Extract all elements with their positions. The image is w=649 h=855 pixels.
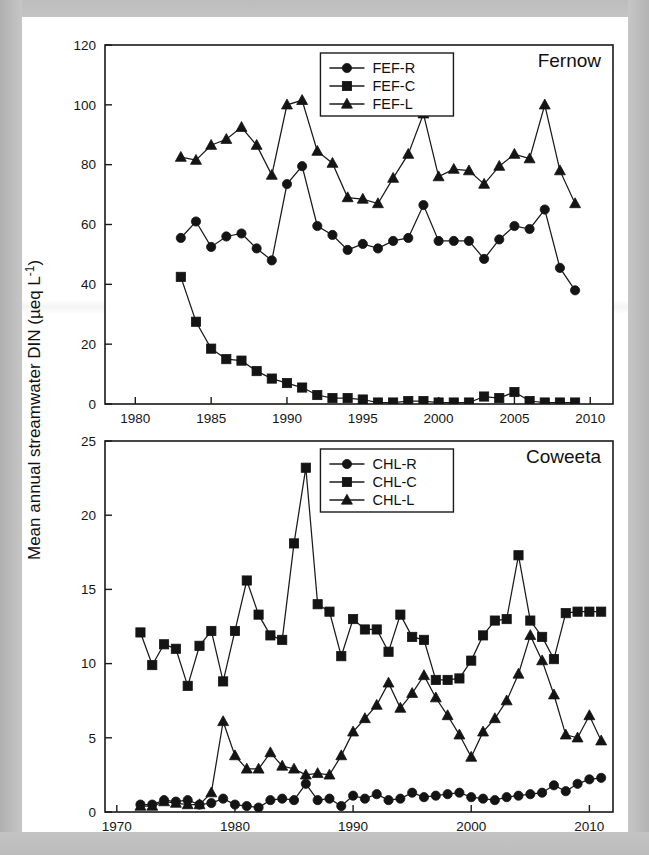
legend-label-CHL-L: CHL-L (372, 492, 414, 508)
y-tick-label: 5 (88, 731, 96, 746)
y-tick-label: 10 (81, 656, 96, 671)
data-point-CHL-C (372, 625, 381, 634)
data-point-CHL-C (159, 640, 168, 649)
x-tick-label: 1985 (196, 411, 226, 426)
data-point-CHL-R (408, 788, 417, 797)
panel-title: Fernow (538, 50, 602, 71)
data-point-CHL-C (207, 626, 216, 635)
data-point-CHL-R (597, 773, 606, 782)
data-point-CHL-R (502, 793, 511, 802)
data-point-FEF-C (252, 366, 261, 375)
data-point-FEF-R (434, 236, 443, 245)
data-point-CHL-C (573, 607, 582, 616)
data-point-FEF-R (191, 217, 200, 226)
data-point-FEF-C (480, 392, 489, 401)
legend-label-FEF-L: FEF-L (372, 96, 412, 112)
data-point-CHL-C (230, 626, 239, 635)
data-point-FEF-R (480, 254, 489, 263)
data-point-FEF-C (540, 398, 549, 407)
data-point-CHL-R (549, 781, 558, 790)
data-point-CHL-C (502, 614, 511, 623)
legend: CHL-RCHL-CCHL-L (320, 449, 453, 512)
legend-label-CHL-R: CHL-R (372, 456, 416, 472)
y-tick-label: 0 (88, 397, 96, 412)
x-tick-label: 1990 (338, 819, 368, 834)
data-point-CHL-C (348, 614, 357, 623)
data-point-CHL-C (301, 463, 310, 472)
data-point-FEF-R (555, 263, 564, 272)
x-tick-label: 1970 (102, 819, 132, 834)
chart-svg: Mean annual streamwater DIN (µeq L-1) 02… (0, 0, 649, 855)
data-point-CHL-C (337, 652, 346, 661)
legend-marker-FEF-R (342, 63, 351, 72)
data-point-FEF-R (267, 256, 276, 265)
data-point-CHL-C (266, 631, 275, 640)
data-point-CHL-R (289, 796, 298, 805)
y-tick-label: 100 (73, 98, 96, 113)
legend-label-FEF-C: FEF-C (372, 78, 415, 94)
data-point-FEF-C (328, 393, 337, 402)
data-point-FEF-R (358, 239, 367, 248)
data-point-FEF-R (313, 221, 322, 230)
data-point-FEF-R (389, 236, 398, 245)
data-point-CHL-C (289, 539, 298, 548)
data-point-CHL-C (561, 609, 570, 618)
data-point-CHL-R (455, 788, 464, 797)
legend-marker-CHL-C (342, 477, 351, 486)
data-point-CHL-R (301, 779, 310, 788)
panel-title: Coweeta (526, 446, 601, 467)
y-axis-label: Mean annual streamwater DIN (µeq L-1) (23, 260, 44, 560)
data-point-CHL-R (490, 796, 499, 805)
data-point-CHL-C (597, 607, 606, 616)
data-point-CHL-R (207, 798, 216, 807)
y-tick-label: 0 (88, 805, 96, 820)
y-tick-label: 40 (81, 277, 96, 292)
figure-container: Mean annual streamwater DIN (µeq L-1) 02… (0, 0, 649, 855)
data-point-FEF-R (510, 221, 519, 230)
data-point-CHL-C (325, 607, 334, 616)
data-point-FEF-R (237, 229, 246, 238)
data-point-CHL-C (585, 607, 594, 616)
data-point-FEF-C (191, 317, 200, 326)
x-tick-label: 2000 (456, 819, 486, 834)
data-point-FEF-C (510, 387, 519, 396)
data-point-CHL-R (467, 793, 476, 802)
data-point-FEF-R (464, 236, 473, 245)
data-point-CHL-R (278, 794, 287, 803)
data-point-CHL-R (561, 787, 570, 796)
data-point-FEF-C (343, 393, 352, 402)
data-point-CHL-R (526, 790, 535, 799)
data-point-FEF-R (252, 244, 261, 253)
data-point-CHL-R (266, 796, 275, 805)
data-point-FEF-R (570, 286, 579, 295)
data-point-FEF-C (207, 344, 216, 353)
panel-coweeta: 051015202519701980199020002010CoweetaCHL… (81, 434, 613, 834)
data-point-CHL-C (278, 635, 287, 644)
data-point-FEF-R (328, 230, 337, 239)
data-point-FEF-C (555, 398, 564, 407)
data-point-FEF-R (419, 200, 428, 209)
data-point-CHL-C (384, 647, 393, 656)
data-point-FEF-C (449, 398, 458, 407)
data-point-CHL-R (431, 791, 440, 800)
data-point-CHL-C (526, 616, 535, 625)
data-point-CHL-R (573, 779, 582, 788)
data-point-CHL-R (372, 790, 381, 799)
data-point-FEF-R (176, 233, 185, 242)
x-tick-label: 1990 (272, 411, 302, 426)
data-point-FEF-C (389, 398, 398, 407)
data-point-CHL-C (254, 610, 263, 619)
y-tick-label: 25 (81, 434, 96, 449)
x-tick-label: 2010 (575, 411, 605, 426)
x-tick-label: 2005 (499, 411, 529, 426)
y-tick-label: 120 (73, 38, 96, 53)
data-point-CHL-C (419, 635, 428, 644)
data-point-CHL-C (148, 660, 157, 669)
data-point-FEF-C (222, 355, 231, 364)
data-point-CHL-C (549, 655, 558, 664)
data-point-CHL-C (467, 656, 476, 665)
data-point-CHL-R (348, 791, 357, 800)
data-point-FEF-R (525, 224, 534, 233)
data-point-FEF-C (237, 356, 246, 365)
data-point-CHL-C (455, 674, 464, 683)
